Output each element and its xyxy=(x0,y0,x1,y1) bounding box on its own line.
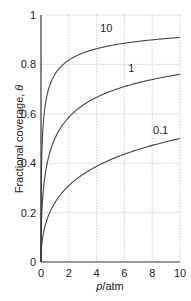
isotherm-curve-10 xyxy=(41,37,180,262)
curve-label: 1 xyxy=(128,62,134,74)
gridlines xyxy=(41,15,180,262)
curve-label: 10 xyxy=(100,22,112,34)
x-tick-label: 10 xyxy=(174,267,186,279)
adsorption-isotherm-chart: 00.20.40.60.81 0246810 1010.1 p/atm Frac… xyxy=(0,0,191,301)
x-tick-label: 2 xyxy=(66,267,72,279)
curve-label: 0.1 xyxy=(153,124,168,136)
x-tick-label: 6 xyxy=(121,267,127,279)
y-axis-label: Fractional coverage, θ xyxy=(13,85,25,194)
x-tick-label: 8 xyxy=(149,267,155,279)
isotherm-curve-0_1 xyxy=(41,139,180,263)
isotherm-curves xyxy=(41,37,180,262)
x-tick-label: 4 xyxy=(94,267,100,279)
x-tick-labels: 0246810 xyxy=(38,267,186,279)
y-tick-label: 0 xyxy=(30,256,36,268)
x-tick-label: 0 xyxy=(38,267,44,279)
x-axis-label: p/atm xyxy=(95,280,124,292)
y-tick-label: 1 xyxy=(30,9,36,21)
y-tick-label: 0.8 xyxy=(21,58,36,70)
y-tick-label: 0.2 xyxy=(21,207,36,219)
isotherm-curve-1 xyxy=(41,74,180,262)
